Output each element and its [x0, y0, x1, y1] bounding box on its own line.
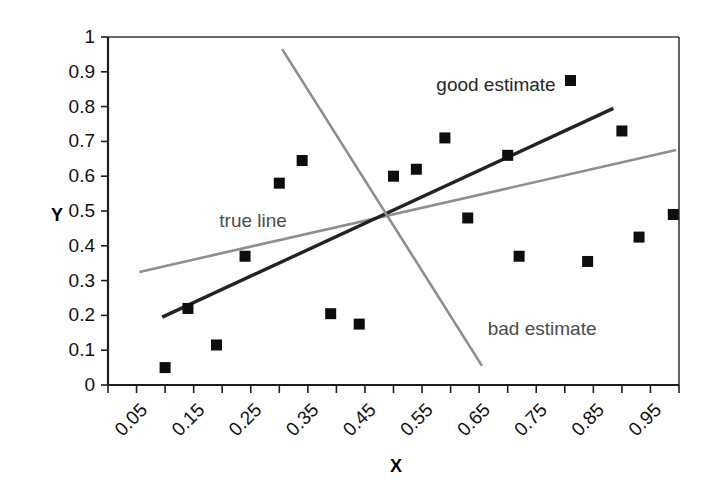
data-point — [160, 362, 171, 373]
data-point — [668, 209, 679, 220]
data-point — [616, 125, 627, 136]
annotation-bad-estimate: bad estimate — [488, 318, 597, 339]
data-point — [211, 339, 222, 350]
x-axis-title: X — [390, 456, 402, 476]
y-tick-label: 0.2 — [69, 304, 95, 325]
y-tick-label: 0.6 — [69, 165, 95, 186]
data-point — [514, 251, 525, 262]
data-point — [240, 251, 251, 262]
data-point — [502, 150, 513, 161]
y-tick-label: 0.9 — [69, 61, 95, 82]
data-point — [354, 319, 365, 330]
y-tick-label: 0.4 — [69, 235, 96, 256]
chart-figure: 00.10.20.30.40.50.60.70.80.91 0.050.150.… — [0, 0, 709, 486]
y-tick-label: 0 — [84, 374, 95, 395]
y-tick-label: 0.7 — [69, 130, 95, 151]
scatter-plot-svg: 00.10.20.30.40.50.60.70.80.91 0.050.150.… — [0, 0, 709, 486]
data-point — [439, 132, 450, 143]
y-tick-label: 0.8 — [69, 96, 95, 117]
data-point — [582, 256, 593, 267]
data-point — [462, 212, 473, 223]
y-tick-label: 0.5 — [69, 200, 95, 221]
y-tick-label: 0.3 — [69, 270, 95, 291]
annotation-true-line: true line — [219, 210, 287, 231]
data-point — [634, 232, 645, 243]
data-point — [274, 178, 285, 189]
data-point — [182, 303, 193, 314]
data-point — [411, 164, 422, 175]
data-point — [388, 171, 399, 182]
y-tick-label: 1 — [84, 26, 95, 47]
annotation-good-estimate: good estimate — [436, 74, 555, 95]
y-axis-title: Y — [51, 205, 63, 225]
data-point — [325, 308, 336, 319]
data-point — [565, 75, 576, 86]
data-point — [297, 155, 308, 166]
y-tick-label: 0.1 — [69, 339, 95, 360]
